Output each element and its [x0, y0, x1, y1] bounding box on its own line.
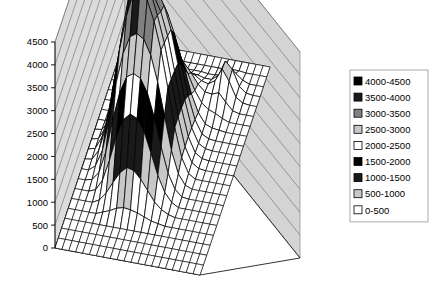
- legend-item[interactable]: 500-1000: [354, 188, 405, 199]
- z-axis-tick-label: 1000: [27, 197, 48, 208]
- legend-item-label: 0-500: [365, 205, 389, 216]
- z-axis-tick-label: 3500: [27, 82, 48, 93]
- chart-legend[interactable]: 4000-45003500-40003000-35002500-30002000…: [350, 70, 428, 222]
- legend-item[interactable]: 0-500: [354, 205, 389, 216]
- z-axis-tick-label: 3000: [27, 105, 48, 116]
- legend-swatch[interactable]: [354, 158, 362, 166]
- z-axis-tick-label: 4000: [27, 59, 48, 70]
- legend-swatch[interactable]: [354, 109, 362, 117]
- legend-item-label: 2000-2500: [365, 140, 410, 151]
- legend-item-label: 3000-3500: [365, 108, 410, 119]
- legend-item-label: 4000-4500: [365, 76, 410, 87]
- legend-item-label: 2500-3000: [365, 124, 410, 135]
- legend-swatch[interactable]: [354, 190, 362, 198]
- legend-item-label: 1500-2000: [365, 156, 410, 167]
- z-axis-tick-label: 2500: [27, 128, 48, 139]
- legend-item-label: 1000-1500: [365, 172, 410, 183]
- legend-swatch[interactable]: [354, 141, 362, 149]
- z-axis-tick-label: 500: [32, 220, 48, 231]
- legend-swatch[interactable]: [354, 125, 362, 133]
- z-axis-tick-label: 0: [43, 242, 48, 253]
- z-axis-tick-label: 1500: [27, 174, 48, 185]
- z-axis-tick-label: 4500: [27, 36, 48, 47]
- legend-item-label: 3500-4000: [365, 92, 410, 103]
- legend-item-label: 500-1000: [365, 188, 405, 199]
- legend-swatch[interactable]: [354, 93, 362, 101]
- legend-swatch[interactable]: [354, 206, 362, 214]
- legend-swatch[interactable]: [354, 174, 362, 182]
- surface-chart-3d: 450040003500300025002000150010005000 400…: [0, 0, 436, 290]
- legend-swatch[interactable]: [354, 77, 362, 85]
- z-axis-tick-label: 2000: [27, 151, 48, 162]
